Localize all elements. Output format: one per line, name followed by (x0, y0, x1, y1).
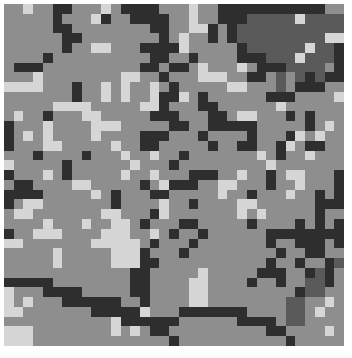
grid-cell (43, 307, 53, 317)
grid-cell (286, 326, 296, 336)
grid-cell (53, 258, 63, 268)
grid-cell (227, 121, 237, 131)
grid-cell (130, 326, 140, 336)
grid-cell (159, 190, 169, 200)
grid-cell (325, 24, 335, 34)
grid-cell (266, 190, 276, 200)
grid-cell (286, 180, 296, 190)
grid-cell (121, 4, 131, 14)
grid-cell (91, 219, 101, 229)
grid-cell (286, 33, 296, 43)
grid-cell (111, 72, 121, 82)
grid-cell (23, 239, 33, 249)
grid-cell (72, 297, 82, 307)
grid-cell (140, 24, 150, 34)
grid-cell (276, 278, 286, 288)
grid-cell (305, 33, 315, 43)
grid-cell (33, 63, 43, 73)
grid-cell (334, 239, 344, 249)
grid-cell (295, 24, 305, 34)
grid-cell (257, 63, 267, 73)
grid-cell (111, 24, 121, 34)
grid-cell (198, 180, 208, 190)
grid-cell (23, 43, 33, 53)
grid-cell (33, 219, 43, 229)
grid-cell (315, 336, 325, 346)
grid-cell (334, 14, 344, 24)
grid-cell (140, 111, 150, 121)
grid-cell (14, 131, 24, 141)
grid-cell (159, 14, 169, 24)
grid-cell (82, 268, 92, 278)
grid-cell (247, 287, 257, 297)
grid-cell (334, 121, 344, 131)
grid-cell (286, 258, 296, 268)
grid-cell (53, 121, 63, 131)
grid-cell (334, 160, 344, 170)
grid-cell (111, 307, 121, 317)
grid-cell (23, 33, 33, 43)
grid-cell (140, 336, 150, 346)
grid-cell (111, 199, 121, 209)
grid-cell (82, 141, 92, 151)
grid-cell (218, 239, 228, 249)
grid-cell (33, 209, 43, 219)
grid-cell (189, 209, 199, 219)
grid-cell (295, 53, 305, 63)
grid-cell (91, 82, 101, 92)
grid-cell (325, 72, 335, 82)
grid-cell (334, 258, 344, 268)
grid-cell (72, 170, 82, 180)
grid-cell (218, 278, 228, 288)
grid-cell (315, 102, 325, 112)
grid-cell (91, 14, 101, 24)
grid-cell (150, 82, 160, 92)
grid-cell (4, 92, 14, 102)
grid-cell (169, 248, 179, 258)
grid-cell (179, 160, 189, 170)
grid-cell (295, 160, 305, 170)
grid-cell (4, 43, 14, 53)
grid-cell (101, 131, 111, 141)
grid-cell (218, 141, 228, 151)
grid-cell (33, 180, 43, 190)
grid-cell (101, 258, 111, 268)
grid-cell (189, 151, 199, 161)
grid-cell (257, 209, 267, 219)
grid-cell (62, 151, 72, 161)
grid-cell (266, 248, 276, 258)
grid-cell (266, 24, 276, 34)
grid-cell (237, 199, 247, 209)
grid-cell (208, 317, 218, 327)
grid-cell (325, 326, 335, 336)
grid-cell (257, 190, 267, 200)
grid-cell (169, 287, 179, 297)
grid-cell (159, 219, 169, 229)
grid-cell (121, 63, 131, 73)
grid-cell (150, 287, 160, 297)
grid-cell (14, 248, 24, 258)
grid-cell (218, 33, 228, 43)
grid-cell (189, 33, 199, 43)
grid-cell (91, 268, 101, 278)
grid-cell (159, 258, 169, 268)
grid-cell (266, 239, 276, 249)
grid-cell (286, 199, 296, 209)
grid-cell (208, 24, 218, 34)
grid-cell (23, 53, 33, 63)
grid-cell (130, 43, 140, 53)
grid-cell (208, 4, 218, 14)
grid-cell (43, 209, 53, 219)
grid-cell (111, 121, 121, 131)
grid-cell (82, 307, 92, 317)
grid-cell (334, 180, 344, 190)
grid-cell (189, 24, 199, 34)
grid-cell (227, 151, 237, 161)
grid-cell (334, 278, 344, 288)
grid-cell (43, 278, 53, 288)
grid-cell (315, 278, 325, 288)
grid-cell (237, 326, 247, 336)
grid-cell (198, 190, 208, 200)
grid-cell (121, 209, 131, 219)
grid-cell (33, 102, 43, 112)
